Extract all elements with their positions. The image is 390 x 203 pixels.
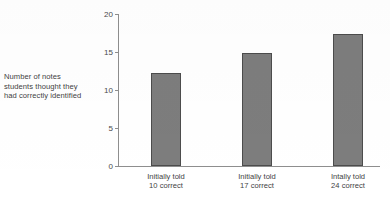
x-category-label-line-2: 24 correct [296, 181, 390, 190]
y-tick-mark [115, 52, 118, 53]
y-tick-label: 20 [104, 10, 113, 19]
bar-category-1 [151, 73, 181, 166]
x-category-label-2: Initially told 17 correct [205, 172, 309, 191]
x-category-label-line-2: 10 correct [114, 181, 218, 190]
x-category-label-line-1: Intally told [296, 172, 390, 181]
y-tick-mark [115, 166, 118, 167]
y-tick-mark [115, 90, 118, 91]
y-axis-caption-line-1: Number of notes [4, 72, 100, 82]
bar-category-2 [242, 53, 272, 166]
y-tick-label: 0 [109, 162, 113, 171]
y-axis-caption-line-3: had correctly identified [4, 91, 100, 101]
plot-area: 0 5 10 15 20 Initially told 10 correct I… [118, 14, 370, 166]
x-category-label-1: Initially told 10 correct [114, 172, 218, 191]
y-tick-mark [115, 128, 118, 129]
bar-category-3 [333, 34, 363, 166]
x-category-label-line-1: Initially told [205, 172, 309, 181]
x-category-label-3: Intally told 24 correct [296, 172, 390, 191]
y-axis-caption: Number of notes students thought they ha… [4, 72, 100, 101]
y-tick-label: 10 [104, 86, 113, 95]
y-axis-caption-line-2: students thought they [4, 82, 100, 92]
y-tick-label: 5 [109, 124, 113, 133]
x-category-label-line-2: 17 correct [205, 181, 309, 190]
y-tick-mark [115, 14, 118, 15]
x-axis-line [118, 166, 380, 167]
x-category-label-line-1: Initially told [114, 172, 218, 181]
bar-chart-figure: Number of notes students thought they ha… [0, 0, 390, 203]
y-axis-line [118, 14, 119, 166]
y-tick-label: 15 [104, 48, 113, 57]
